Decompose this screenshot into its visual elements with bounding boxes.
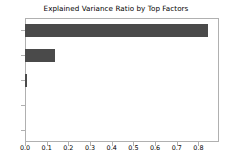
- bar: [25, 74, 27, 87]
- x-tick-label: 0.2: [58, 144, 78, 152]
- x-tick-label: 0.3: [80, 144, 100, 152]
- x-tick-label: 0.8: [188, 144, 208, 152]
- y-tick-mark: [21, 130, 25, 131]
- y-tick-mark: [21, 55, 25, 56]
- y-tick-mark: [21, 30, 25, 31]
- bar: [25, 24, 208, 37]
- x-tick-label: 0.4: [102, 144, 122, 152]
- x-tick-label: 0.6: [145, 144, 165, 152]
- y-tick-mark: [21, 105, 25, 106]
- x-tick-label: 0.0: [15, 144, 35, 152]
- plot-area: [25, 18, 219, 142]
- y-tick-mark: [21, 80, 25, 81]
- x-tick-label: 0.1: [37, 144, 57, 152]
- bar: [25, 49, 55, 62]
- chart-title: Explained Variance Ratio by Top Factors: [0, 4, 232, 13]
- x-tick-label: 0.7: [167, 144, 187, 152]
- chart-figure: Explained Variance Ratio by Top Factors …: [0, 0, 232, 167]
- x-tick-label: 0.5: [123, 144, 143, 152]
